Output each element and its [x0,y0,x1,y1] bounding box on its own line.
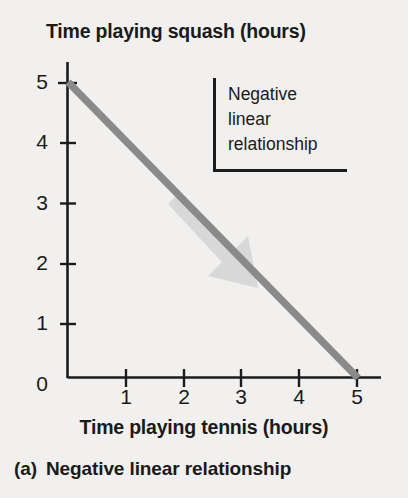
trend-arrow-icon [168,194,258,288]
y-tick-label-3: 3 [22,191,48,215]
annotation-line-3: relationship [228,132,318,157]
y-tick-label-1: 1 [22,311,48,335]
x-tick-label-2: 2 [171,385,197,409]
annotation-text: Negative linear relationship [228,82,318,157]
x-tick-label-4: 4 [286,385,312,409]
annotation-line-1: Negative [228,82,318,107]
figure-caption: (a)Negative linear relationship [14,458,408,480]
x-tick-label-5: 5 [344,385,370,409]
caption-letter: (a) [14,458,37,479]
annotation-line-2: linear [228,107,318,132]
x-tick-label-1: 1 [113,385,139,409]
plot-area [0,0,408,420]
y-tick-label-0: 0 [22,372,48,396]
y-tick-label-5: 5 [22,70,48,94]
x-axis-title: Time playing tennis (hours) [0,416,408,439]
caption-text: Negative linear relationship [46,458,291,479]
y-tick-label-4: 4 [22,130,48,154]
figure-panel: Time playing squash (hours) [0,0,408,498]
y-tick-label-2: 2 [22,251,48,275]
annotation-box: Negative linear relationship [213,78,347,172]
x-tick-label-3: 3 [228,385,254,409]
